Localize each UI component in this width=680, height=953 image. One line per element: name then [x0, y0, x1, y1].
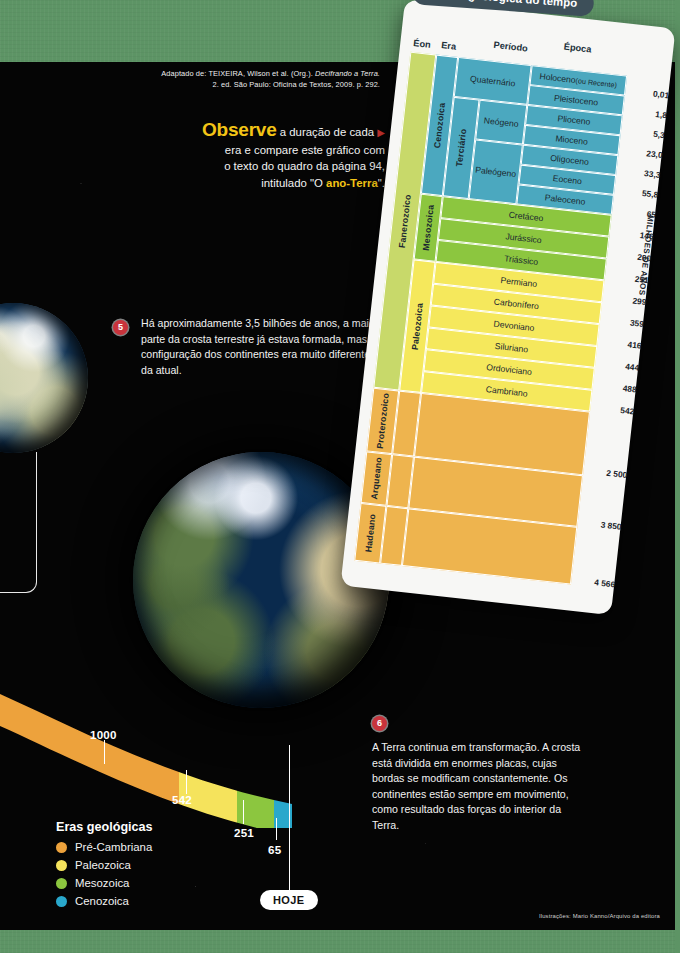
legend-title: Eras geológicas	[56, 820, 153, 834]
age-value-359: 359	[630, 318, 645, 329]
legend-swatch-pre-cambriana	[56, 842, 67, 853]
timeline-label-65: 65	[268, 843, 281, 856]
age-value-416: 416	[627, 339, 642, 350]
legend-label-cenozoica: Cenozoica	[75, 895, 129, 907]
callout-6-text: A Terra continua em transformação. A cro…	[372, 740, 587, 834]
table-cell-paleógeno: Paleógeno	[469, 139, 523, 204]
illustration-credit: Ilustrações: Mario Kanno/Arquivo da edit…	[390, 913, 660, 919]
geologic-time-table: FanerozoicoProterozoicoArqueanoHadeanoCe…	[354, 52, 627, 585]
observe-line4-prefix: intitulado "O	[261, 177, 326, 189]
table-cell-neógeno: Neógeno	[475, 100, 527, 145]
card-title: Escala geológica do tempo	[411, 0, 594, 17]
age-value-299: 299	[632, 296, 647, 307]
age-value-488: 488	[622, 383, 637, 394]
geologic-timeline-ribbon	[0, 668, 322, 828]
today-label: HOJE	[260, 890, 318, 910]
observe-bold-word: Observe	[202, 119, 277, 140]
callout-5-text: Há aproximadamente 3,5 bilhões de anos, …	[141, 316, 381, 378]
age-value-55-8: 55,8	[641, 188, 658, 200]
ribbon-precambrian	[0, 668, 179, 828]
legend-item-pre-cambriana: Pré-Cambriana	[56, 841, 153, 853]
timeline-label-251: 251	[234, 826, 254, 839]
timeline-tick-1000	[104, 740, 105, 764]
legend-swatch-mesozoica	[56, 878, 67, 889]
today-leader-line	[289, 745, 290, 891]
callout-6: 6 A Terra continua em transformação. A c…	[372, 712, 587, 834]
column-header-periodo: Período	[493, 40, 528, 54]
age-value-4-566: 4 566	[594, 577, 616, 589]
observe-line3: o texto do quadro da página 94,	[224, 160, 385, 172]
callout-6-badge: 6	[372, 716, 387, 731]
age-value-5-3: 5,3	[653, 129, 666, 140]
timeline-tick-542	[186, 770, 187, 794]
legend-item-cenozoica: Cenozoica	[56, 895, 153, 907]
age-value-3-850: 3 850	[600, 520, 622, 532]
age-value-444: 444	[625, 361, 640, 372]
legend-swatch-cenozoica	[56, 896, 67, 907]
age-value-542: 542	[620, 405, 635, 416]
geologic-time-scale-card: Escala geológica do tempo Éon Era Períod…	[372, 4, 672, 624]
legend-label-pre-cambriana: Pré-Cambriana	[75, 841, 152, 853]
card-title-banner: Escala geológica do tempo	[411, 0, 594, 17]
legend: Eras geológicas Pré-Cambriana Paleozoica…	[56, 820, 153, 913]
callout-5-badge: 5	[113, 320, 128, 335]
age-value-2-500: 2 500	[606, 468, 628, 480]
timeline-tick-251	[243, 800, 244, 824]
legend-swatch-paleozoica	[56, 860, 67, 871]
connector-line	[0, 452, 37, 593]
card-surface: Escala geológica do tempo Éon Era Períod…	[340, 0, 675, 615]
source-attribution: Adaptado de: TEIXEIRA, Wilson et al. (Or…	[90, 68, 380, 90]
legend-item-paleozoica: Paleozoica	[56, 859, 153, 871]
timeline-tick-65	[276, 818, 277, 840]
source-line1-prefix: Adaptado de: TEIXEIRA, Wilson et al. (Or…	[161, 69, 315, 78]
observe-callout: Observe a duração de cada ▶ era e compar…	[120, 122, 385, 191]
column-header-eon: Éon	[413, 38, 431, 50]
timeline-label-542: 542	[172, 793, 192, 806]
age-value-1-8: 1,8	[655, 109, 668, 120]
observe-line2: era e compare este gráfico com	[225, 144, 385, 156]
column-header-era: Era	[441, 40, 457, 52]
age-value-33-3: 33,3	[644, 168, 661, 180]
legend-item-mesozoica: Mesozoica	[56, 877, 153, 889]
age-scale-column: 0,011,85,323,033,355,8651462002512993594…	[629, 76, 671, 81]
source-line1-italic: Decifrando a Terra.	[315, 69, 380, 78]
timeline-label-1000: 1000	[90, 728, 117, 741]
observe-line4-bold: ano-Terra	[326, 177, 378, 189]
legend-label-paleozoica: Paleozoica	[75, 859, 131, 871]
source-line2: 2. ed. São Paulo: Oficina de Textos, 200…	[212, 80, 380, 89]
column-header-epoca: Época	[563, 42, 592, 55]
observe-rest-line1: a duração de cada	[277, 126, 375, 138]
callout-5: 5 Há aproximadamente 3,5 bilhões de anos…	[113, 316, 381, 335]
age-value-23-0: 23,0	[646, 148, 663, 160]
card-inner: Éon Era Período Época FanerozoicoProtero…	[352, 38, 660, 604]
age-value-0-01: 0,01	[652, 89, 669, 101]
legend-label-mesozoica: Mesozoica	[75, 877, 129, 889]
